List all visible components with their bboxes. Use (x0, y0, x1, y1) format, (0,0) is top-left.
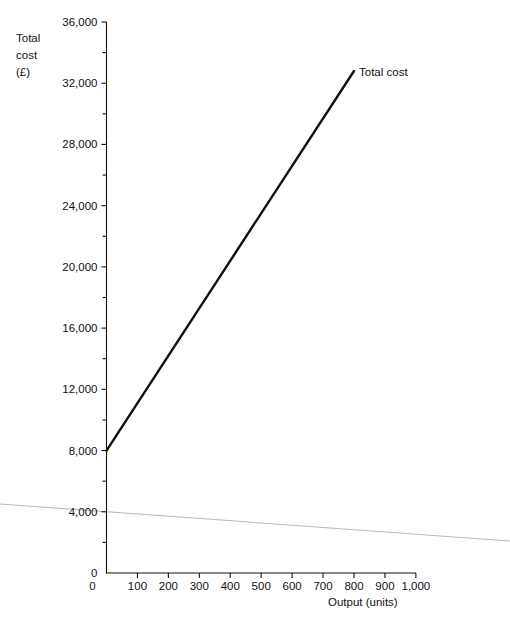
x-tick-label-100: 100 (128, 580, 147, 592)
y-axis-title-line-1: Total (16, 32, 40, 44)
y-tick-label-36000: 36,000 (62, 16, 97, 28)
x-tick-label-800: 800 (344, 580, 363, 592)
chart-canvas: 04,0008,00012,00016,00020,00024,00028,00… (0, 0, 510, 619)
y-tick-label-8000: 8,000 (69, 445, 98, 457)
y-tick-label-16000: 16,000 (62, 322, 97, 334)
y-tick-label-32000: 32,000 (62, 77, 97, 89)
x-tick-label-400: 400 (221, 580, 240, 592)
series-annotation-total-cost: Total cost (359, 66, 408, 78)
x-axis-tick-labels: 01002003004005006007008009001,000 (89, 580, 430, 592)
series-line-0 (107, 71, 355, 451)
y-axis-title-line-2: cost (16, 49, 38, 61)
x-tick-label-500: 500 (252, 580, 271, 592)
y-tick-label-24000: 24,000 (62, 200, 97, 212)
y-tick-label-20000: 20,000 (62, 261, 97, 273)
y-tick-label-28000: 28,000 (62, 138, 97, 150)
x-tick-label-1000: 1,000 (401, 580, 430, 592)
y-axis-title-line-3: (£) (16, 66, 30, 78)
x-tick-label-700: 700 (313, 580, 332, 592)
x-tick-label-900: 900 (375, 580, 394, 592)
y-axis-minor-ticks (103, 53, 107, 543)
total-cost-chart: 04,0008,00012,00016,00020,00024,00028,00… (0, 0, 510, 619)
y-tick-label-0: 0 (91, 567, 97, 579)
x-tick-label-200: 200 (159, 580, 178, 592)
x-axis-title: Output (units) (328, 596, 398, 608)
y-axis-ticks (102, 22, 107, 512)
data-series-group (107, 71, 355, 451)
x-axis-ticks (137, 573, 415, 578)
y-tick-label-12000: 12,000 (62, 383, 97, 395)
y-axis-tick-labels: 04,0008,00012,00016,00020,00024,00028,00… (62, 16, 97, 579)
x-tick-label-600: 600 (283, 580, 302, 592)
x-tick-label-300: 300 (190, 580, 209, 592)
y-tick-label-4000: 4,000 (69, 506, 98, 518)
x-tick-label-0: 0 (89, 580, 95, 592)
